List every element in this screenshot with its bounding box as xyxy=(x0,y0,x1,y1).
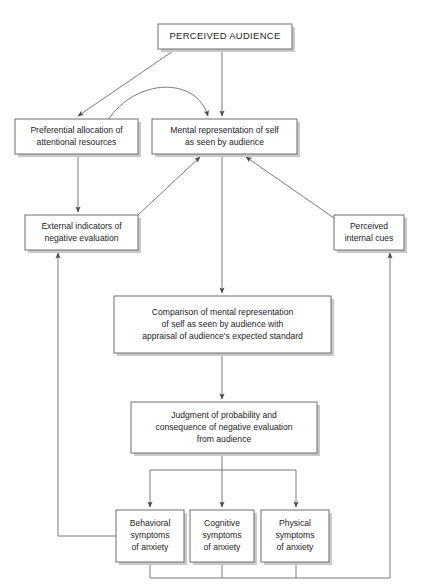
preferential-allocation-label-line-2: attentional resources xyxy=(37,137,117,147)
node-judgment: Judgment of probability andconsequence o… xyxy=(131,402,320,456)
node-physical-symptoms: Physicalsymptomsof anxiety xyxy=(261,510,332,565)
behavioral-symptoms-label-line-3: of anxiety xyxy=(132,542,169,552)
perceived-internal-cues-label-line-1: Perceived xyxy=(350,221,388,231)
node-behavioral-symptoms: Behavioralsymptomsof anxiety xyxy=(116,510,187,565)
node-comparison: Comparison of mental representationof se… xyxy=(114,296,334,356)
comparison-label-line-3: appraisal of audience's expected standar… xyxy=(142,331,303,341)
cognitive-symptoms-label-line-3: of anxiety xyxy=(204,542,241,552)
edge-external-to-mental xyxy=(138,157,200,215)
physical-symptoms-label-line-3: of anxiety xyxy=(277,542,314,552)
mental-representation-label-line-2: as seen by audience xyxy=(185,137,264,147)
cognitive-symptoms-label-line-2: symptoms xyxy=(202,530,241,540)
flowchart-canvas: PERCEIVED AUDIENCEPreferential allocatio… xyxy=(0,0,422,588)
comparison-label-line-2: of self as seen by audience with xyxy=(162,319,284,329)
node-cognitive-symptoms: Cognitivesymptomsof anxiety xyxy=(190,510,257,565)
edge-behavioral-to-external-indicators xyxy=(58,253,116,536)
node-perceived-audience: PERCEIVED AUDIENCE xyxy=(158,24,295,52)
behavioral-symptoms-label-line-2: symptoms xyxy=(130,530,169,540)
node-perceived-internal-cues: Perceivedinternal cues xyxy=(334,215,407,253)
mental-representation-label-line-1: Mental representation of self xyxy=(170,125,279,135)
node-preferential-allocation: Preferential allocation ofattentional re… xyxy=(15,119,141,157)
judgment-label-line-1: Judgment of probability and xyxy=(171,410,277,420)
edge-preferential-to-mental xyxy=(108,87,208,120)
node-external-indicators: External indicators ofnegative evaluatio… xyxy=(25,215,141,253)
perceived-audience-label-line-1: PERCEIVED AUDIENCE xyxy=(169,30,280,41)
judgment-label-line-2: consequence of negative evaluation xyxy=(155,422,292,432)
cognitive-symptoms-label-line-1: Cognitive xyxy=(204,518,240,528)
flowchart-diagram: PERCEIVED AUDIENCEPreferential allocatio… xyxy=(0,0,422,588)
node-mental-representation: Mental representation of selfas seen by … xyxy=(152,119,300,157)
preferential-allocation-label-line-1: Preferential allocation of xyxy=(30,125,123,135)
nodes-layer: PERCEIVED AUDIENCEPreferential allocatio… xyxy=(15,24,407,565)
physical-symptoms-label-line-1: Physical xyxy=(279,518,311,528)
physical-symptoms-label-line-2: symptoms xyxy=(275,530,314,540)
external-indicators-label-line-2: negative evaluation xyxy=(44,233,118,243)
behavioral-symptoms-label-line-1: Behavioral xyxy=(130,518,171,528)
perceived-internal-cues-label-line-2: internal cues xyxy=(345,233,394,243)
edge-internal-cues-to-mental xyxy=(246,157,334,218)
external-indicators-label-line-1: External indicators of xyxy=(41,221,122,231)
edge-audience-to-preferential xyxy=(78,49,176,116)
comparison-label-line-1: Comparison of mental representation xyxy=(152,307,294,317)
judgment-label-line-3: from audience xyxy=(197,434,252,444)
